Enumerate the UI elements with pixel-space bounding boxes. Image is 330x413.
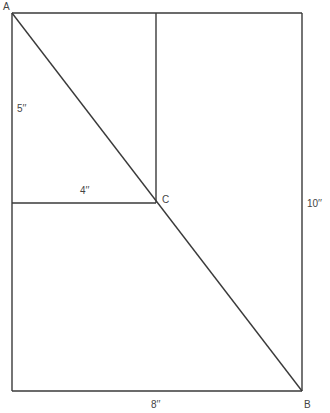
- geometry-diagram: A B C 5′′ 4′′ 10′′ 8′′: [0, 0, 330, 413]
- diagonal-a-b: [12, 13, 302, 391]
- measurement-outer-height: 10′′: [307, 198, 322, 209]
- point-label-b: B: [304, 399, 311, 410]
- measurement-inner-width: 4′′: [80, 185, 89, 196]
- point-label-c: C: [162, 194, 169, 205]
- point-label-a: A: [3, 1, 10, 12]
- measurement-inner-height: 5′′: [17, 103, 26, 114]
- measurement-outer-width: 8′′: [151, 399, 160, 410]
